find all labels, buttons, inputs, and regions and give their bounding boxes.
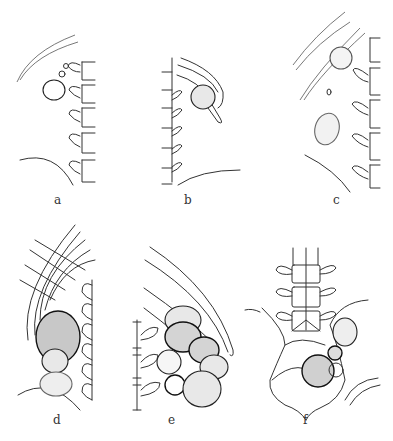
panel-label-b: b: [184, 193, 192, 207]
panel-f-drawing: [262, 248, 380, 420]
panel-label-f: f: [303, 413, 307, 427]
panel-a-drawing: [17, 35, 95, 185]
panel-label-d: d: [53, 413, 61, 427]
panel-label-e: e: [168, 413, 175, 427]
panel-e-drawing: [133, 247, 260, 410]
anatomical-diagram: [0, 0, 393, 441]
panel-label-c: c: [333, 193, 340, 207]
panel-c-drawing: [293, 12, 380, 192]
panel-label-a: a: [54, 193, 61, 207]
panel-d-drawing: [18, 225, 95, 410]
panel-b-drawing: [162, 58, 240, 185]
